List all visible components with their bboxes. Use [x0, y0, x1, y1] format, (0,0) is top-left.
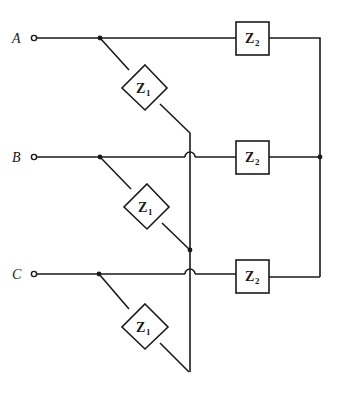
terminal-b-icon	[31, 154, 36, 159]
z2-a-symbol: Z	[245, 31, 254, 46]
phase-c-branch: C Z 2 Z 1	[12, 260, 320, 372]
z1-a-subscript: 1	[146, 88, 151, 98]
z1-a-lead-out	[160, 104, 190, 152]
z1-c-lead-in	[99, 274, 129, 309]
phase-a-branch: A Z 2 Z 1	[11, 22, 320, 277]
z1-c-symbol: Z	[136, 320, 145, 335]
z1-b-symbol: Z	[138, 200, 147, 215]
terminal-c-icon	[31, 271, 36, 276]
z1-c-subscript: 1	[146, 327, 151, 337]
terminal-b-label: B	[12, 150, 21, 165]
z1-a-lead-in	[100, 38, 129, 70]
terminal-c-label: C	[12, 267, 22, 282]
z1-b-lead-in	[100, 157, 131, 189]
z1-b-subscript: 1	[148, 207, 153, 217]
terminal-a-label: A	[11, 31, 21, 46]
circuit-diagram: A Z 2 Z 1 B Z 2 Z 1 C	[0, 0, 337, 400]
z2-b-symbol: Z	[245, 150, 254, 165]
terminal-a-icon	[31, 35, 36, 40]
z2-c-subscript: 2	[255, 276, 260, 286]
z1-c-lead-out	[160, 343, 189, 372]
z2-b-subscript: 2	[255, 157, 260, 167]
z1-b-lead-out	[162, 223, 190, 250]
phase-b-branch: B Z 2 Z 1	[12, 141, 322, 252]
z1-a-symbol: Z	[136, 81, 145, 96]
neutral-junction-icon	[318, 155, 323, 160]
z2-a-subscript: 2	[255, 38, 260, 48]
z2-c-symbol: Z	[245, 269, 254, 284]
